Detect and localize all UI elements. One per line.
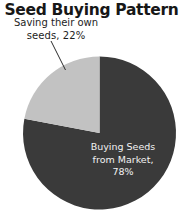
slice-label-left-line-1: Saving their own xyxy=(14,17,98,28)
label-leader-line xyxy=(51,41,66,70)
pie-chart-figure: Seed Buying Pattern Saving their own see… xyxy=(0,0,183,223)
slice-label-right-line-2: from Market, xyxy=(84,154,162,167)
slice-label-right-line-3: 78% xyxy=(84,166,162,179)
slice-label-right-line-1: Buying Seeds xyxy=(84,141,162,154)
slice-label-saving-their-own-seeds: Saving their own seeds, 22% xyxy=(4,16,108,42)
slice-label-buying-seeds-from-market: Buying Seeds from Market, 78% xyxy=(84,141,162,179)
slice-label-left-line-2: seeds, 22% xyxy=(4,29,108,42)
